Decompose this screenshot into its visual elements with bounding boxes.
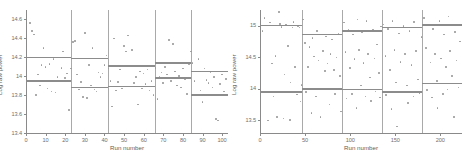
data-point bbox=[74, 40, 76, 42]
x-tick-label: 0 bbox=[251, 137, 269, 143]
data-point bbox=[318, 60, 320, 62]
data-point bbox=[293, 21, 295, 23]
data-point bbox=[316, 30, 318, 32]
data-point bbox=[366, 20, 368, 22]
data-point bbox=[456, 60, 458, 62]
data-point bbox=[176, 85, 178, 87]
x-tick bbox=[222, 133, 223, 136]
data-point bbox=[329, 104, 331, 106]
y-axis-title: Log raw power bbox=[230, 54, 237, 95]
data-point bbox=[62, 51, 64, 53]
data-point bbox=[454, 31, 456, 33]
data-point bbox=[451, 75, 453, 77]
data-point bbox=[200, 90, 202, 92]
data-point bbox=[41, 64, 43, 66]
segment-divider bbox=[302, 10, 303, 133]
x-tick-label: 80 bbox=[174, 137, 192, 143]
data-point bbox=[324, 70, 326, 72]
upper-level-line bbox=[71, 58, 108, 59]
data-point bbox=[289, 119, 291, 121]
data-point bbox=[396, 126, 398, 128]
x-tick-label: 60 bbox=[135, 137, 153, 143]
data-point bbox=[219, 83, 221, 85]
y-tick-label: 13.4 bbox=[1, 130, 22, 136]
upper-level-line bbox=[382, 27, 423, 28]
data-point bbox=[47, 88, 49, 90]
data-point bbox=[98, 72, 100, 74]
data-point bbox=[394, 49, 396, 51]
panel-left: 13.413.613.81414.214.414.601020304050607… bbox=[0, 0, 232, 166]
data-point bbox=[96, 91, 98, 93]
data-point bbox=[275, 55, 277, 57]
data-point bbox=[125, 51, 127, 53]
data-point bbox=[426, 89, 428, 91]
upper-level-line bbox=[191, 71, 228, 72]
data-point bbox=[406, 85, 408, 87]
data-point bbox=[320, 116, 322, 118]
data-point bbox=[375, 91, 377, 93]
data-point bbox=[115, 90, 117, 92]
lower-level-line bbox=[260, 91, 302, 92]
data-point bbox=[264, 17, 266, 19]
data-point bbox=[283, 118, 285, 120]
upper-level-line bbox=[108, 65, 155, 66]
data-point bbox=[434, 53, 436, 55]
x-tick-label: 200 bbox=[431, 137, 449, 143]
segment-divider bbox=[71, 10, 72, 133]
data-point bbox=[432, 28, 434, 30]
data-point bbox=[305, 91, 307, 93]
data-point bbox=[217, 120, 219, 122]
data-point bbox=[447, 89, 449, 91]
upper-level-line bbox=[260, 25, 302, 26]
data-point bbox=[106, 55, 108, 57]
data-point bbox=[365, 96, 367, 98]
data-point bbox=[172, 43, 174, 45]
data-point bbox=[192, 62, 194, 64]
data-point bbox=[117, 81, 119, 83]
data-point bbox=[113, 38, 115, 40]
x-tick-label: 100 bbox=[213, 137, 231, 143]
x-tick bbox=[305, 133, 306, 136]
data-point bbox=[39, 85, 41, 87]
data-point bbox=[333, 69, 335, 71]
data-point bbox=[442, 93, 444, 95]
data-point bbox=[141, 88, 143, 90]
data-point bbox=[398, 33, 400, 35]
data-point bbox=[35, 94, 37, 96]
data-point bbox=[273, 96, 275, 98]
data-point bbox=[313, 56, 315, 58]
data-point bbox=[161, 72, 163, 74]
data-point bbox=[104, 64, 106, 66]
upper-level-line bbox=[26, 57, 71, 58]
data-point bbox=[413, 21, 415, 23]
x-tick bbox=[124, 133, 125, 136]
y-tick-label: 14 bbox=[235, 85, 256, 91]
data-point bbox=[443, 34, 445, 36]
lower-level-line bbox=[302, 88, 342, 89]
data-point bbox=[278, 11, 280, 13]
data-point bbox=[204, 68, 206, 70]
data-point bbox=[339, 75, 341, 77]
data-point bbox=[123, 45, 125, 47]
data-point bbox=[37, 74, 39, 76]
data-point bbox=[194, 80, 196, 82]
data-point bbox=[100, 76, 102, 78]
data-point bbox=[357, 19, 359, 21]
data-point bbox=[421, 36, 423, 38]
data-point bbox=[385, 55, 387, 57]
data-point bbox=[131, 49, 133, 51]
data-point bbox=[404, 53, 406, 55]
data-point bbox=[322, 50, 324, 52]
data-point bbox=[262, 30, 264, 32]
data-point bbox=[86, 97, 88, 99]
x-tick bbox=[395, 133, 396, 136]
data-point bbox=[127, 35, 129, 37]
data-point bbox=[155, 67, 157, 69]
data-point bbox=[162, 82, 164, 84]
x-tick bbox=[65, 133, 66, 136]
segment-divider bbox=[342, 10, 343, 133]
data-point bbox=[309, 46, 311, 48]
y-tick bbox=[24, 38, 27, 39]
data-point bbox=[325, 36, 327, 38]
data-point bbox=[213, 76, 215, 78]
